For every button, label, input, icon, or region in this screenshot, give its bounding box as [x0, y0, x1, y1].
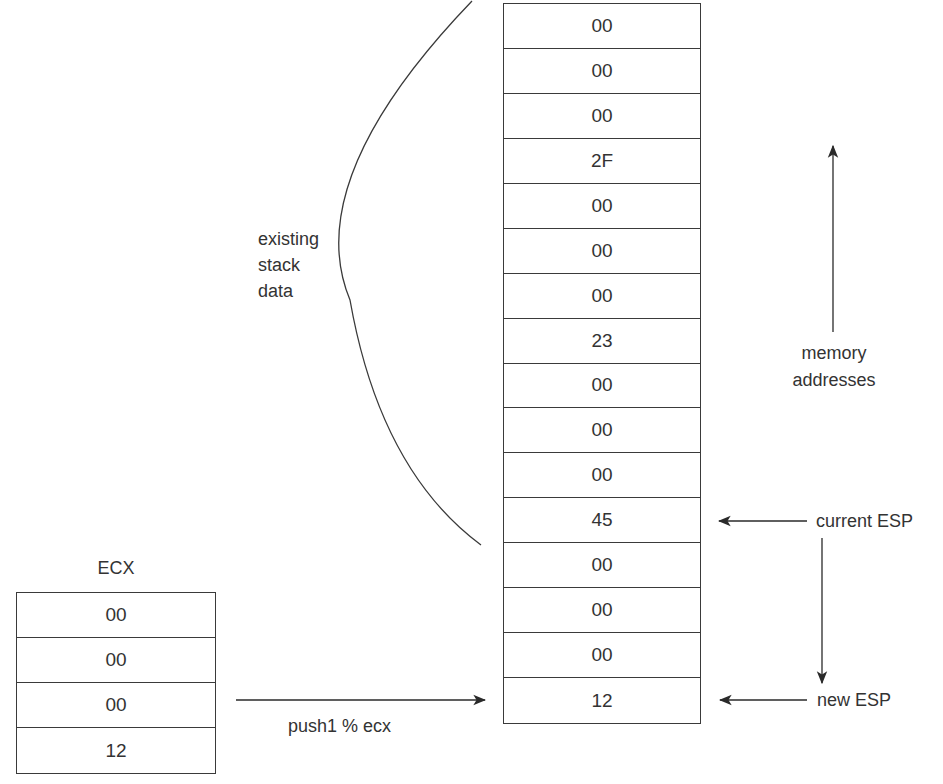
existing-stack-data-bracket-icon — [339, 1, 481, 545]
label-line: existing — [258, 226, 319, 252]
push-instruction-label: push1 % ecx — [288, 714, 391, 738]
stack-memory-column: 00 00 00 2F 00 00 00 23 00 00 00 45 00 0… — [503, 3, 701, 724]
stack-cell: 23 — [504, 319, 700, 364]
stack-cell: 00 — [504, 4, 700, 49]
stack-cell: 00 — [504, 229, 700, 274]
label-line: data — [258, 278, 319, 304]
stack-cell: 00 — [504, 364, 700, 409]
existing-stack-data-label: existing stack data — [258, 226, 319, 304]
ecx-register-title: ECX — [16, 556, 216, 580]
stack-cell: 00 — [504, 49, 700, 94]
stack-cell: 00 — [504, 453, 700, 498]
stack-cell: 00 — [504, 633, 700, 678]
ecx-byte-cell: 00 — [17, 638, 215, 683]
new-esp-label: new ESP — [817, 688, 891, 712]
label-line: memory — [780, 340, 888, 367]
stack-cell-new-esp: 12 — [504, 678, 700, 723]
stack-cell: 00 — [504, 408, 700, 453]
stack-cell: 00 — [504, 274, 700, 319]
stack-cell: 00 — [504, 94, 700, 139]
memory-addresses-label: memory addresses — [780, 340, 888, 394]
stack-cell: 00 — [504, 588, 700, 633]
stack-cell: 00 — [504, 543, 700, 588]
stack-cell-current-esp: 45 — [504, 498, 700, 543]
ecx-register-box: 00 00 00 12 — [16, 592, 216, 774]
label-line: stack — [258, 252, 319, 278]
ecx-byte-cell: 00 — [17, 683, 215, 728]
ecx-byte-cell: 12 — [17, 728, 215, 773]
stack-cell: 00 — [504, 184, 700, 229]
label-line: addresses — [780, 367, 888, 394]
current-esp-label: current ESP — [816, 509, 913, 533]
stack-cell: 2F — [504, 139, 700, 184]
ecx-byte-cell: 00 — [17, 593, 215, 638]
